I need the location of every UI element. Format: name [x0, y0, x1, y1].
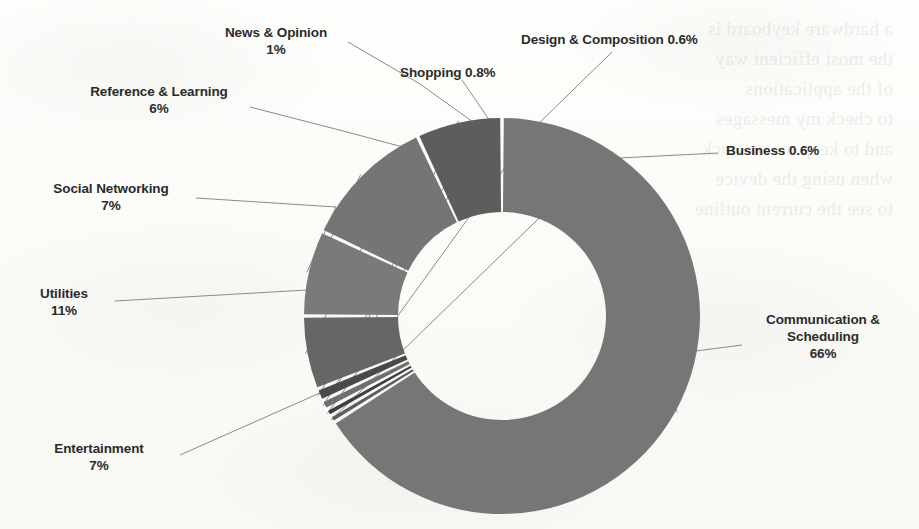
slice-label-communication-scheduling-text-2: Scheduling [742, 328, 904, 345]
slice-label-reference-learning-text: Reference & Learning [90, 84, 228, 99]
slice-label-entertainment-percent: 7% [24, 457, 174, 474]
slice-label-news-opinion-text: News & Opinion [225, 25, 327, 40]
slice-label-utilities-text: Utilities [40, 286, 88, 301]
donut-slices-group [304, 118, 700, 514]
slice-label-social-networking-percent: 7% [29, 197, 193, 214]
slice-label-news-opinion: News & Opinion 1% [206, 24, 346, 58]
slice-label-communication-scheduling: Communication & Scheduling 66% [742, 311, 904, 362]
slice-label-communication-scheduling-percent: 66% [742, 345, 904, 362]
slice-label-reference-learning-percent: 6% [66, 100, 252, 117]
slice-label-shopping: Shopping 0.8% [400, 64, 495, 81]
slice-label-entertainment: Entertainment 7% [24, 440, 174, 474]
slice-label-reference-learning: Reference & Learning 6% [66, 83, 252, 117]
slice-label-utilities-percent: 11% [14, 302, 114, 319]
slice-label-social-networking-text: Social Networking [53, 181, 168, 196]
slice-label-entertainment-text: Entertainment [54, 441, 143, 456]
slice-label-business: Business 0.6% [726, 142, 819, 159]
slice-label-business-text: Business 0.6% [726, 143, 819, 158]
slice-label-design-composition: Design & Composition 0.6% [521, 31, 698, 48]
slice-label-design-composition-text: Design & Composition 0.6% [521, 32, 698, 47]
slice-label-communication-scheduling-text: Communication & [766, 312, 880, 327]
slice-label-utilities: Utilities 11% [14, 285, 114, 319]
slice-label-news-opinion-percent: 1% [206, 41, 346, 58]
slice-label-shopping-text: Shopping 0.8% [400, 65, 495, 80]
donut-chart: News & Opinion 1% Reference & Learning 6… [0, 0, 919, 529]
slice-label-social-networking: Social Networking 7% [29, 180, 193, 214]
